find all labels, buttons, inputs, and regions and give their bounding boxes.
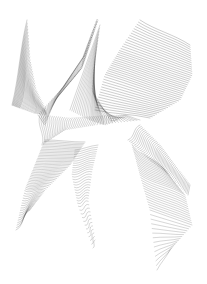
line-art-canvas (0, 0, 207, 284)
